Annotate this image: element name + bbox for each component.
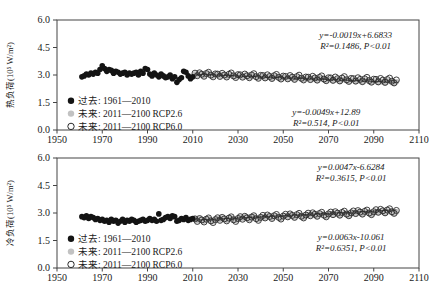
x-tick-label: 1970 (92, 272, 112, 283)
x-tick-label: 2070 (319, 272, 339, 283)
x-tick-label: 2030 (228, 134, 248, 145)
x-tick-label: 2050 (273, 134, 293, 145)
x-tick-label: 2030 (228, 272, 248, 283)
x-tick-label: 2050 (273, 272, 293, 283)
legend-label: 过去: 1961—2010 (78, 95, 151, 106)
legend-label: 未来: 2011—2100 RCP2.6 (78, 108, 183, 119)
data-point (156, 211, 162, 217)
heat-load-panel: 1950197019902010203020502070209021100.01… (0, 4, 439, 150)
legend-marker (68, 110, 74, 116)
legend-label: 未来: 2011—2100 RCP6.0 (78, 259, 183, 270)
legend-marker-open (68, 123, 74, 129)
x-tick-label: 2010 (183, 272, 203, 283)
heat-load-chart: 1950197019902010203020502070209021100.01… (0, 4, 439, 150)
y-tick-label: 0.0 (38, 124, 51, 135)
y-tick-label: 3.0 (38, 207, 51, 218)
x-tick-label: 2090 (364, 134, 384, 145)
annotation-line: R²=0.3615, P<0.01 (315, 173, 387, 183)
legend-marker (68, 98, 74, 104)
legend-label: 未来: 2011—2100 RCP2.6 (78, 246, 183, 257)
legend-label: 未来: 2011—2100 RCP6.0 (78, 121, 183, 132)
annotation-line: y=0.0047x-6.6284 (317, 162, 385, 172)
x-tick-label: 2070 (319, 134, 339, 145)
y-tick-label: 4.5 (38, 42, 51, 53)
legend-marker-open (68, 261, 74, 267)
data-point (179, 75, 185, 81)
y-tick-label: 6.0 (38, 152, 51, 163)
y-tick-label: 6.0 (38, 14, 51, 25)
regression-annotation: y=0.0047x-6.6284R²=0.3615, P<0.01 (315, 162, 387, 183)
x-tick-label: 2110 (409, 272, 429, 283)
y-axis-label: 冷负荷(10⁵ W/m²) (5, 180, 15, 246)
y-axis-label: 热负荷(10⁵ W/m²) (5, 42, 15, 108)
annotation-line: y=0.0063x-10.061 (317, 232, 385, 242)
annotation-line: y=-0.0019x+6.6833 (318, 30, 392, 40)
annotation-line: y=-0.0049x+12.89 (291, 107, 361, 117)
legend-marker (68, 248, 74, 254)
annotation-line: R²=0.6351, P<0.01 (315, 243, 387, 253)
figure-canvas: { "header": { "clipped_caption": "·· ···… (0, 0, 439, 307)
x-tick-label: 1950 (47, 134, 67, 145)
cold-load-panel: 1950197019902010203020502070209021100.01… (0, 150, 439, 307)
x-tick-label: 1990 (138, 134, 158, 145)
x-tick-label: 2010 (183, 134, 203, 145)
annotation-line: R²=0.514, P<0.01 (292, 118, 359, 128)
y-tick-label: 0.0 (38, 262, 51, 273)
data-point (190, 74, 196, 80)
x-tick-label: 1950 (47, 272, 67, 283)
y-tick-label: 1.5 (38, 97, 51, 108)
y-tick-label: 4.5 (38, 180, 51, 191)
regression-annotation: y=-0.0049x+12.89R²=0.514, P<0.01 (291, 107, 361, 128)
regression-annotation: y=0.0063x-10.061R²=0.6351, P<0.01 (315, 232, 387, 253)
x-tick-label: 1970 (92, 134, 112, 145)
annotation-line: R²=0.1486, P<0.01 (319, 41, 391, 51)
y-tick-label: 3.0 (38, 69, 51, 80)
y-tick-label: 1.5 (38, 235, 51, 246)
x-tick-label: 2110 (409, 134, 429, 145)
legend-label: 过去: 1961—2010 (78, 233, 151, 244)
regression-annotation: y=-0.0019x+6.6833R²=0.1486, P<0.01 (318, 30, 392, 51)
x-tick-label: 1990 (138, 272, 158, 283)
cold-load-chart: 1950197019902010203020502070209021100.01… (0, 150, 439, 307)
x-tick-label: 2090 (364, 272, 384, 283)
data-point (190, 216, 196, 222)
legend-marker (68, 236, 74, 242)
